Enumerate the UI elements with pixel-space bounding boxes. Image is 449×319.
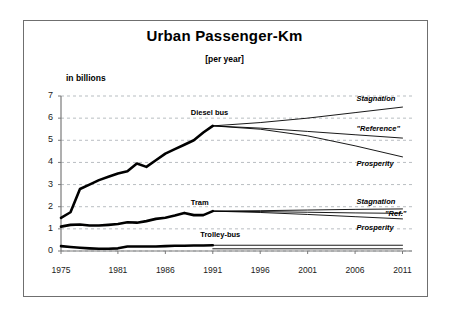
chart-subtitle: [per year] [0,54,449,64]
x-tick-label-1986: 1986 [145,265,185,275]
x-tick-label-2001: 2001 [288,265,328,275]
x-tick-label-1991: 1991 [193,265,233,275]
projection-line-diesel-bus-stagnation [213,107,403,126]
x-tick-label-1981: 1981 [98,265,138,275]
annotation-prosperity: Prosperity [357,223,394,232]
y-tick-label-4: 4 [37,156,53,166]
y-tick-label-7: 7 [37,90,53,100]
y-tick-label-0: 0 [37,245,53,255]
x-tick-label-2006: 2006 [335,265,375,275]
history-lines [61,126,213,249]
annotation-prosperity: Prosperity [357,159,394,168]
projection-line-tram-stagnation [213,209,403,211]
y-tick-label-3: 3 [37,179,53,189]
annotation-stagnation: Stagnation [357,197,396,206]
x-tick-label-1975: 1975 [41,265,81,275]
history-line-trolley-bus [61,245,213,249]
y-tick-label-5: 5 [37,134,53,144]
y-axis-label: in billions [66,73,106,83]
x-tick-label-2011: 2011 [383,265,423,275]
y-tick-label-2: 2 [37,201,53,211]
x-tick-label-1996: 1996 [240,265,280,275]
y-tick-label-6: 6 [37,112,53,122]
annotation-ref: "Ref." [385,209,406,218]
annotation-diesel-bus: Diesel bus [191,108,229,117]
annotation-tram: Tram [191,198,209,207]
annotation-reference: "Reference" [357,124,400,133]
chart-title: Urban Passenger-Km [0,27,449,44]
annotation-trolley-bus: Trolley-bus [200,230,240,239]
annotation-stagnation: Stagnation [357,94,396,103]
y-tick-label-1: 1 [37,223,53,233]
history-line-tram [61,211,213,227]
chart-figure: Urban Passenger-Km [per year] in billion… [0,0,449,319]
